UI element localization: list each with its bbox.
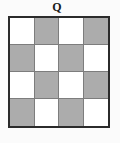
grid-cell-r3-c3 bbox=[59, 72, 84, 99]
grid-border bbox=[8, 16, 110, 128]
grid-cell-r1-c4 bbox=[84, 18, 109, 45]
grid-cell-r4-c1 bbox=[10, 99, 35, 126]
checkerboard-grid bbox=[10, 18, 108, 126]
grid-cell-r1-c3 bbox=[59, 18, 84, 45]
grid-cell-r4-c3 bbox=[59, 99, 84, 126]
grid-cell-r4-c2 bbox=[35, 99, 60, 126]
grid-cell-r2-c1 bbox=[10, 45, 35, 72]
grid-cell-r3-c4 bbox=[84, 72, 109, 99]
grid-cell-r2-c4 bbox=[84, 45, 109, 72]
grid-cell-r4-c4 bbox=[84, 99, 109, 126]
grid-cell-r3-c1 bbox=[10, 72, 35, 99]
checkerboard-figure: Q bbox=[0, 0, 120, 143]
grid-cell-r1-c2 bbox=[35, 18, 60, 45]
grid-cell-r2-c3 bbox=[59, 45, 84, 72]
grid-cell-r2-c2 bbox=[35, 45, 60, 72]
grid-cell-r1-c1 bbox=[10, 18, 35, 45]
figure-label: Q bbox=[0, 1, 114, 14]
grid-cell-r3-c2 bbox=[35, 72, 60, 99]
